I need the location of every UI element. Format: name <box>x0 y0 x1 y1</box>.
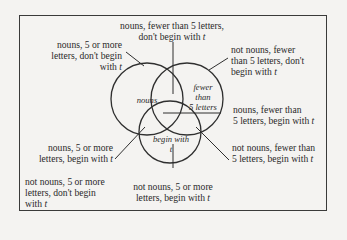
label-bottom-center: not nouns, 5 or more letters, begin with… <box>123 181 223 203</box>
label-lower-left: nouns, 5 or more letters, begin with t <box>22 142 113 164</box>
begin-with-t-set-label: begin with t <box>146 134 196 154</box>
label-upper-left: nouns, 5 or more letters, don't begin wi… <box>30 39 122 72</box>
fewer-set-label: fewer than 5 letters <box>183 82 223 112</box>
leader-lower-right <box>196 127 229 160</box>
leader-upper-left <box>126 52 144 66</box>
label-lower-right: not nouns, fewer than 5 letters, begin w… <box>232 142 315 164</box>
label-bottom-left: not nouns, 5 or more letters, don't begi… <box>25 176 105 209</box>
label-mid-right: nouns, fewer than 5 letters, begin with … <box>233 104 314 126</box>
label-upper-right: not nouns, fewer than 5 letters, don't b… <box>231 44 304 77</box>
label-top: nouns, fewer than 5 letters, don't begin… <box>112 20 232 42</box>
leader-upper-right <box>209 58 228 70</box>
nouns-set-label: nouns <box>130 95 164 105</box>
